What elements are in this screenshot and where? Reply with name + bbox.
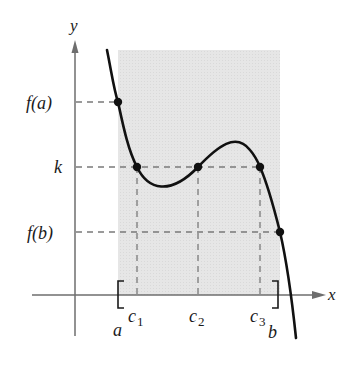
c2-label: c2 xyxy=(189,306,205,329)
point-fb xyxy=(276,228,284,236)
shaded-interval-region xyxy=(118,50,280,295)
fb-label: f(b) xyxy=(27,223,53,244)
y-axis-label: y xyxy=(68,16,78,35)
c1-label: c1 xyxy=(128,306,144,329)
ivt-diagram: y x f(a) k f(b) a b c1 c2 c3 xyxy=(0,0,352,366)
c3-label: c3 xyxy=(250,306,266,329)
fa-label: f(a) xyxy=(26,93,52,114)
point-c3-k xyxy=(256,163,264,171)
point-c2-k xyxy=(194,163,202,171)
k-label: k xyxy=(54,157,63,177)
b-label: b xyxy=(268,322,277,342)
x-axis-arrow-icon xyxy=(312,291,326,299)
x-axis-label: x xyxy=(327,285,336,304)
point-fa xyxy=(114,98,122,106)
point-c1-k xyxy=(133,163,141,171)
a-label: a xyxy=(113,320,122,340)
y-axis-arrow-icon xyxy=(72,40,79,53)
